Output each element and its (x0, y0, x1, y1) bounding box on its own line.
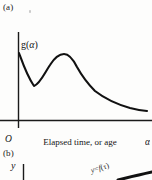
curve-g-alpha (19, 53, 147, 111)
panel-b-label: (b) (3, 148, 14, 158)
x-axis-variable: α (145, 137, 150, 147)
panel-b-y-axis-label: y (11, 160, 15, 171)
panel-a-label: (a) (3, 2, 13, 12)
panel-a-chart: g(α) O Elapsed time, or age α (0, 14, 152, 144)
panel-b-plot-area (0, 158, 152, 180)
origin-label: O (5, 134, 12, 144)
figure-page: (a) g(α) O Elapsed time, or age α (b) y … (0, 0, 152, 180)
y-axis-label: g(α) (21, 39, 38, 50)
panel-b-chart: y y=f(τ) (0, 158, 152, 180)
y-axis-label-paren-close: ) (35, 39, 38, 50)
chart-plot-area (0, 14, 152, 144)
x-axis-caption: Elapsed time, or age (34, 137, 126, 147)
panel-b-curve (118, 172, 152, 180)
scan-speck (29, 10, 31, 13)
